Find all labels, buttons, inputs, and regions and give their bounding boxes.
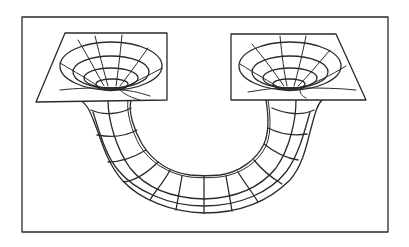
left-wormhole-mouth: [36, 33, 167, 102]
right-wormhole-mouth: [231, 34, 366, 100]
wormhole-tube: [80, 100, 322, 213]
wormhole-drawing: [0, 0, 409, 247]
wormhole-illustration: Wormhole sketch: two funnel-shaped mouth…: [0, 0, 409, 247]
